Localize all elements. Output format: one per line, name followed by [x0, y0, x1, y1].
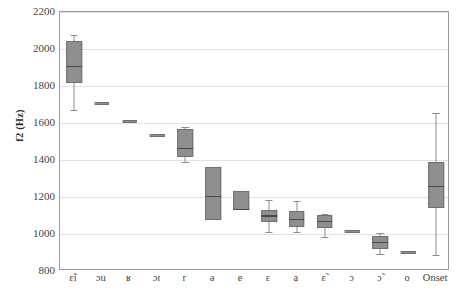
y-axis-tick-label: 1600 [33, 117, 55, 128]
y-axis-tick-label: 1400 [33, 154, 55, 165]
median-line [233, 209, 249, 210]
x-axis-tick-label: r [183, 272, 187, 284]
box-plot-2 [88, 12, 116, 269]
x-axis-tick-label: e [238, 272, 243, 284]
y-axis-ticks: 2200200018001600140012001000800 [0, 11, 55, 270]
whisker-cap-upper [293, 201, 300, 202]
x-axis-tick-label: ɛ̃i [69, 272, 76, 284]
x-axis-ticks: ɛ̃iɔuʁɔɪrəeɛaɛ̃ɔɔ̃oOnset [59, 272, 449, 298]
box-iqr [205, 167, 221, 220]
y-axis-tick-label: 1000 [33, 228, 55, 239]
whisker-lower [73, 83, 74, 110]
whisker-cap-lower [182, 162, 189, 163]
x-axis-tick-label: a [293, 272, 298, 284]
box-flat [345, 230, 359, 233]
median-line [178, 148, 194, 149]
y-axis-tick-label: 800 [39, 265, 56, 276]
box-flat [95, 102, 109, 105]
box-plot-12 [366, 12, 394, 269]
x-axis-tick-label: ʁ [126, 272, 131, 284]
box-plot-14 [422, 12, 450, 269]
x-axis-tick-label: Onset [423, 272, 448, 284]
y-axis-tick-label: 2000 [33, 43, 55, 54]
x-axis-tick-label: ɔu [96, 272, 106, 284]
median-line [261, 215, 277, 216]
x-axis-tick-label: ɔɪ [153, 272, 161, 284]
whisker-cap-lower [432, 255, 439, 256]
whisker-upper [436, 113, 437, 162]
plot-area [59, 11, 449, 270]
box-flat [401, 251, 415, 254]
x-axis-tick-label: ə [210, 272, 215, 284]
box-plot-9 [283, 12, 311, 269]
box-plot-4 [144, 12, 172, 269]
median-line [66, 66, 82, 67]
y-axis-tick-label: 1200 [33, 191, 55, 202]
box-plot-8 [255, 12, 283, 269]
whisker-cap-lower [293, 232, 300, 233]
whisker-cap-lower [70, 110, 77, 111]
box-plot-13 [394, 12, 422, 269]
box-plot-7 [227, 12, 255, 269]
whisker-cap-lower [265, 232, 272, 233]
whisker-lower [324, 228, 325, 236]
boxplot-chart: f2 (Hz) 2200200018001600140012001000800 … [0, 0, 467, 300]
median-line [428, 186, 444, 187]
x-axis-tick-label: ɛ̃ [321, 272, 325, 284]
box-plot-3 [116, 12, 144, 269]
median-line [317, 221, 333, 222]
box-plot-6 [199, 12, 227, 269]
box-flat [150, 134, 164, 137]
box-iqr [178, 129, 194, 157]
whisker-cap-upper [182, 127, 189, 128]
whisker-upper [296, 201, 297, 211]
box-iqr [66, 41, 82, 84]
y-axis-tick-label: 1800 [33, 80, 55, 91]
box-flat [122, 120, 136, 123]
whisker-lower [436, 208, 437, 255]
whisker-cap-lower [321, 237, 328, 238]
y-axis-tick-label: 2200 [33, 6, 55, 17]
x-axis-tick-label: o [405, 272, 410, 284]
box-plot-10 [311, 12, 339, 269]
median-line [289, 219, 305, 220]
x-axis-tick-label: ɔ [349, 272, 354, 284]
median-line [373, 242, 389, 243]
box-iqr [233, 191, 249, 210]
box-plot-11 [339, 12, 367, 269]
x-axis-tick-label: ɔ̃ [377, 272, 382, 284]
box-plot-1 [60, 12, 88, 269]
whisker-cap-upper [265, 200, 272, 201]
whisker-lower [268, 222, 269, 231]
whisker-cap-upper [70, 35, 77, 36]
x-axis-tick-label: ɛ [266, 272, 270, 284]
median-line [205, 196, 221, 197]
whisker-cap-upper [432, 113, 439, 114]
box-plot-5 [171, 12, 199, 269]
whisker-cap-lower [377, 254, 384, 255]
whisker-cap-upper [377, 233, 384, 234]
whisker-upper [268, 200, 269, 210]
